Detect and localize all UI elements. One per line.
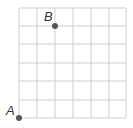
grid-diagram <box>0 0 133 128</box>
point-b-label: B <box>44 9 53 24</box>
grid-lines <box>19 8 126 118</box>
point-a <box>16 115 22 121</box>
point-a-label: A <box>6 103 15 118</box>
